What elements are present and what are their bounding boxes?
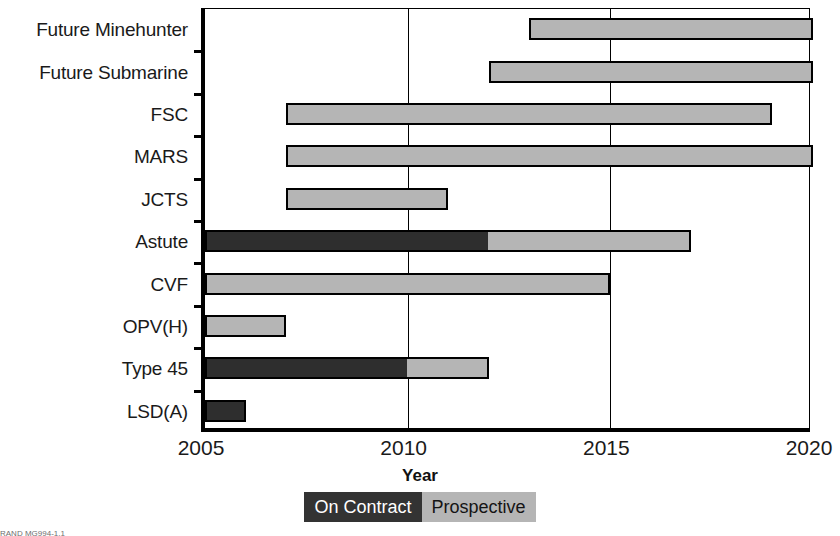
y-axis-label-cvf: CVF [151, 274, 188, 293]
bar-opv-h [205, 315, 286, 337]
chart-plot-area: Future MinehunterFuture SubmarineFSCMARS… [0, 0, 840, 440]
y-axis-label-future-minehunter: Future Minehunter [36, 20, 188, 39]
y-axis-tick [194, 347, 205, 350]
bar-lsd-a [205, 400, 246, 422]
y-axis-label-mars: MARS [134, 147, 188, 166]
bar-segment-on-contract [207, 232, 488, 250]
bar-segment-on-contract [207, 402, 244, 420]
y-axis-label-future-submarine: Future Submarine [39, 62, 188, 81]
y-axis-label-opv-h: OPV(H) [123, 317, 188, 336]
y-axis-category-labels: Future MinehunterFuture SubmarineFSCMARS… [0, 8, 196, 432]
y-axis-label-astute: Astute [135, 232, 188, 251]
bar-type-45 [205, 357, 489, 379]
bar-segment-prospective [531, 20, 811, 38]
bar-fsc [286, 103, 772, 125]
y-axis-tick [194, 390, 205, 393]
bar-segment-prospective [488, 232, 689, 250]
bar-segment-prospective [288, 105, 770, 123]
y-axis-tick [194, 262, 205, 265]
legend-item-on-contract[interactable]: On Contract [304, 492, 421, 522]
x-axis-title: Year [0, 466, 840, 486]
x-axis-tick-label-2005: 2005 [178, 436, 225, 460]
y-axis-tick [194, 135, 205, 138]
bar-segment-prospective [288, 190, 446, 208]
legend-items-group: On ContractProspective [304, 492, 535, 522]
x-axis-tick-label-2015: 2015 [583, 436, 630, 460]
bar-future-minehunter [529, 18, 813, 40]
y-axis-tick [194, 178, 205, 181]
y-axis-label-lsd-a: LSD(A) [127, 401, 188, 420]
bar-mars [286, 145, 813, 167]
bar-astute [205, 230, 691, 252]
y-axis-tick [194, 220, 205, 223]
y-axis-label-fsc: FSC [151, 105, 188, 124]
x-axis-tick-label-2020: 2020 [786, 436, 833, 460]
bar-segment-prospective [288, 147, 811, 165]
y-axis-tick [194, 305, 205, 308]
bar-future-submarine [489, 61, 813, 83]
y-axis-tick [194, 93, 205, 96]
bar-cvf [205, 273, 610, 295]
bar-segment-prospective [207, 275, 608, 293]
x-axis-tick-label-2010: 2010 [380, 436, 427, 460]
bar-jcts [286, 188, 448, 210]
chart-legend: On ContractProspective [0, 492, 840, 522]
bar-segment-prospective [407, 359, 487, 377]
x-axis-tick-labels: 2005201020152020 [0, 436, 840, 466]
figure-root: Future MinehunterFuture SubmarineFSCMARS… [0, 0, 840, 536]
y-axis-label-jcts: JCTS [141, 189, 188, 208]
legend-item-prospective[interactable]: Prospective [422, 492, 536, 522]
plot-canvas [201, 8, 810, 432]
bar-segment-prospective [207, 317, 284, 335]
bar-segment-on-contract [207, 359, 407, 377]
figure-source-note: RAND MG994-1.1 [0, 529, 65, 536]
y-axis-tick [194, 50, 205, 53]
y-axis-label-type-45: Type 45 [122, 359, 188, 378]
bar-segment-prospective [491, 63, 811, 81]
